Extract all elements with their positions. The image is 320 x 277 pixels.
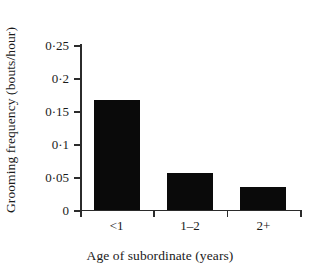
y-axis-tick-label: 0	[63, 202, 70, 218]
x-axis-tick-mark	[227, 210, 229, 217]
bar	[94, 100, 140, 210]
x-axis-title: Age of subordinate (years)	[0, 248, 320, 264]
x-axis-category-label: 2+	[223, 218, 303, 234]
y-axis-title: Grooming frequency (bouts/hour)	[0, 0, 22, 240]
y-axis-tick-label: 0·15	[45, 103, 69, 119]
y-axis-tick-label: 0·05	[45, 169, 69, 185]
y-axis-tick-label: 0·1	[52, 136, 69, 152]
y-axis-tick-mark: 0·2	[74, 78, 81, 80]
y-axis-tick-label: 0·25	[45, 37, 69, 53]
x-axis-tick-mark	[80, 210, 82, 217]
y-axis-tick-label: 0·2	[52, 70, 69, 86]
x-axis-category-label: 1–2	[150, 218, 230, 234]
bar	[240, 187, 286, 210]
x-axis-category-label: <1	[77, 218, 157, 234]
bar-chart-figure: Grooming frequency (bouts/hour) 00·050·1…	[0, 0, 320, 277]
y-axis-tick-mark: 0·15	[74, 111, 81, 113]
y-axis-tick-mark: 0·1	[74, 144, 81, 146]
x-axis-tick-mark	[153, 210, 155, 217]
y-axis-tick-mark: 0·05	[74, 177, 81, 179]
bar	[167, 173, 213, 210]
plot-area: 00·050·10·150·20·25	[80, 45, 300, 210]
x-axis-tick-mark	[300, 210, 302, 217]
y-axis-tick-mark: 0·25	[74, 45, 81, 47]
y-axis-title-text: Grooming frequency (bouts/hour)	[3, 27, 19, 213]
